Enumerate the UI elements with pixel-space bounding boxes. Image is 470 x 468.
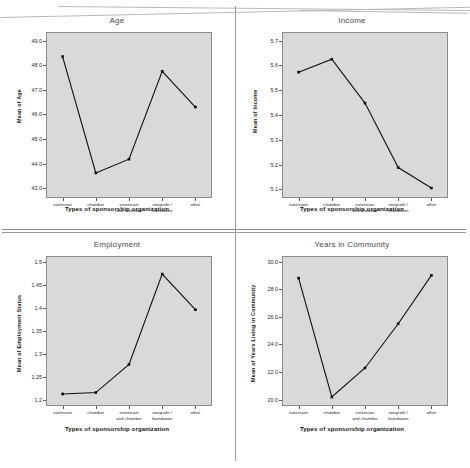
y-tick-label: 24.0 — [248, 341, 278, 347]
y-tick-mark — [279, 289, 282, 290]
y-tick-mark — [43, 139, 46, 140]
plot-area-age — [46, 32, 212, 198]
plot-area-employment — [46, 256, 212, 406]
y-tick-label: 5.6 — [248, 62, 278, 68]
y-tick-mark — [43, 65, 46, 66]
series-polyline — [63, 274, 196, 394]
y-tick-mark — [279, 140, 282, 141]
line-series-income — [282, 32, 448, 198]
y-tick-label: 1.4 — [12, 305, 42, 311]
line-series-employment — [46, 256, 212, 406]
x-tick-mark — [195, 406, 196, 409]
chart-title-years-in-community: Years in Community — [236, 240, 468, 249]
y-tick-mark — [279, 189, 282, 190]
data-point-marker — [430, 187, 433, 190]
y-tick-label: 1.25 — [12, 374, 42, 380]
data-point-marker — [128, 363, 131, 366]
y-tick-mark — [43, 308, 46, 309]
y-tick-label: 20.0 — [248, 397, 278, 403]
chart-title-employment: Employment — [0, 240, 234, 249]
y-tick-label: 43.0 — [12, 185, 42, 191]
y-tick-mark — [43, 164, 46, 165]
page-rule-bottom — [2, 229, 466, 230]
line-series-age — [46, 32, 212, 198]
plot-area-income — [282, 32, 448, 198]
x-tick-label: other — [410, 410, 452, 416]
y-tick-label: 5.4 — [248, 112, 278, 118]
x-tick-mark — [332, 198, 333, 201]
y-tick-mark — [279, 90, 282, 91]
y-tick-mark — [279, 115, 282, 116]
x-tick-mark — [398, 198, 399, 201]
x-tick-label: other — [174, 410, 216, 416]
y-tick-label: 45.0 — [12, 136, 42, 142]
y-tick-mark — [43, 285, 46, 286]
data-point-marker — [194, 106, 197, 109]
data-point-marker — [161, 273, 164, 276]
x-tick-mark — [63, 406, 64, 409]
y-tick-label: 5.5 — [248, 87, 278, 93]
x-axis-title-employment: Types of sponsorship organization — [0, 426, 234, 432]
x-tick-mark — [129, 198, 130, 201]
line-series-years-in-community — [282, 256, 448, 406]
x-tick-label: other — [410, 202, 452, 208]
y-tick-mark — [279, 372, 282, 373]
y-tick-mark — [279, 65, 282, 66]
y-tick-label: 1.35 — [12, 328, 42, 334]
y-tick-mark — [43, 331, 46, 332]
y-tick-label: 5.3 — [248, 137, 278, 143]
series-polyline — [299, 59, 432, 188]
x-tick-mark — [431, 406, 432, 409]
y-tick-label: 5.1 — [248, 186, 278, 192]
x-tick-mark — [162, 198, 163, 201]
y-tick-mark — [43, 354, 46, 355]
y-tick-mark — [43, 377, 46, 378]
chart-panel-age: Age Mean of Age Types of sponsorship org… — [0, 16, 234, 228]
x-axis-title-years-in-community: Types of sponsorship organization — [236, 426, 468, 432]
x-tick-mark — [299, 198, 300, 201]
y-axis-label-years-in-community: Mean of Years Living in Community — [250, 258, 260, 408]
y-axis-label-income: Mean of Income — [252, 56, 262, 166]
y-tick-mark — [43, 90, 46, 91]
y-tick-label: 26.0 — [248, 314, 278, 320]
y-tick-label: 30.0 — [248, 259, 278, 265]
y-tick-label: 47.0 — [12, 87, 42, 93]
data-point-marker — [61, 55, 64, 58]
x-tick-mark — [365, 198, 366, 201]
data-point-marker — [161, 70, 164, 73]
series-polyline — [299, 275, 432, 397]
y-tick-label: 5.2 — [248, 162, 278, 168]
x-tick-mark — [96, 198, 97, 201]
y-tick-label: 28.0 — [248, 286, 278, 292]
y-tick-label: 44.0 — [12, 161, 42, 167]
y-tick-mark — [279, 344, 282, 345]
y-tick-label: 46.0 — [12, 111, 42, 117]
y-tick-label: 48.0 — [12, 62, 42, 68]
chart-panel-years-in-community: Years in Community Mean of Years Living … — [236, 240, 468, 452]
data-point-marker — [397, 322, 400, 325]
x-tick-mark — [299, 406, 300, 409]
chart-panel-income: Income Mean of Income Types of sponsorsh… — [236, 16, 468, 228]
y-tick-mark — [279, 41, 282, 42]
data-point-marker — [194, 308, 197, 311]
data-point-marker — [297, 71, 300, 74]
x-tick-mark — [332, 406, 333, 409]
x-tick-mark — [195, 198, 196, 201]
y-tick-label: 1.45 — [12, 282, 42, 288]
x-tick-mark — [162, 406, 163, 409]
y-tick-label: 1.3 — [12, 351, 42, 357]
chart-panel-employment: Employment Mean of Employment Status Typ… — [0, 240, 234, 452]
data-point-marker — [430, 274, 433, 277]
y-tick-mark — [43, 262, 46, 263]
x-tick-mark — [96, 406, 97, 409]
x-tick-mark — [129, 406, 130, 409]
y-tick-mark — [279, 317, 282, 318]
y-tick-label: 49.0 — [12, 38, 42, 44]
data-point-marker — [364, 102, 367, 105]
x-tick-mark — [63, 198, 64, 201]
data-point-marker — [95, 391, 98, 394]
series-polyline — [63, 57, 196, 173]
x-tick-mark — [431, 198, 432, 201]
chart-title-age: Age — [0, 16, 234, 25]
